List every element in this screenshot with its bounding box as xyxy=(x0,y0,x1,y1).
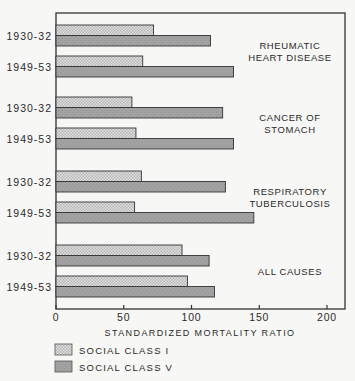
legend-label: SOCIAL CLASS V xyxy=(79,362,173,373)
period-label: 1949-53 xyxy=(6,133,52,145)
cause-label: RHEUMATIC xyxy=(259,40,320,51)
period-label: 1930-32 xyxy=(6,30,52,42)
x-tick-label: 200 xyxy=(317,311,337,323)
bar-social-class-v xyxy=(56,213,254,224)
bar-social-class-i xyxy=(56,97,132,108)
bar-social-class-i xyxy=(56,56,143,67)
bar-social-class-i xyxy=(56,245,182,256)
period-label: 1949-53 xyxy=(6,281,52,293)
bar-social-class-v xyxy=(56,36,210,47)
bar-social-class-i xyxy=(56,171,141,182)
bar-social-class-i xyxy=(56,202,135,213)
x-tick-label: 50 xyxy=(117,311,130,323)
bar-social-class-v xyxy=(56,139,234,150)
x-axis-title: STANDARDIZED MORTALITY RATIO xyxy=(105,328,296,338)
cause-label: STOMACH xyxy=(264,124,316,135)
bar-social-class-v xyxy=(56,108,223,119)
bar-social-class-i xyxy=(56,128,136,139)
x-tick-label: 0 xyxy=(53,311,60,323)
period-label: 1949-53 xyxy=(6,207,52,219)
x-tick-label: 150 xyxy=(249,311,269,323)
legend-swatch-class-i xyxy=(55,344,72,355)
bar-social-class-v xyxy=(56,287,215,298)
cause-label: TUBERCULOSIS xyxy=(249,198,330,209)
cause-label: CANCER OF xyxy=(259,112,320,123)
cause-label: RESPIRATORY xyxy=(253,186,327,197)
bar-social-class-v xyxy=(56,182,225,193)
x-axis: 050100150200 xyxy=(53,305,337,323)
legend: SOCIAL CLASS ISOCIAL CLASS V xyxy=(55,344,173,373)
bar-social-class-v xyxy=(56,256,209,267)
cause-label: ALL CAUSES xyxy=(258,266,322,277)
x-tick-label: 100 xyxy=(182,311,202,323)
period-label: 1930-32 xyxy=(6,176,52,188)
mortality-bar-chart: 1930-321949-531930-321949-531930-321949-… xyxy=(0,0,355,381)
bar-social-class-v xyxy=(56,67,234,78)
bar-social-class-i xyxy=(56,25,154,36)
period-label: 1949-53 xyxy=(6,61,52,73)
legend-swatch-class-v xyxy=(55,361,72,372)
period-label: 1930-32 xyxy=(6,102,52,114)
bars-layer xyxy=(56,25,254,297)
legend-label: SOCIAL CLASS I xyxy=(79,345,169,356)
cause-label: HEART DISEASE xyxy=(248,52,331,63)
period-label: 1930-32 xyxy=(6,250,52,262)
y-axis-labels: 1930-321949-531930-321949-531930-321949-… xyxy=(6,30,52,293)
bar-social-class-i xyxy=(56,276,187,287)
group-labels: RHEUMATICHEART DISEASECANCER OFSTOMACHRE… xyxy=(248,40,331,277)
